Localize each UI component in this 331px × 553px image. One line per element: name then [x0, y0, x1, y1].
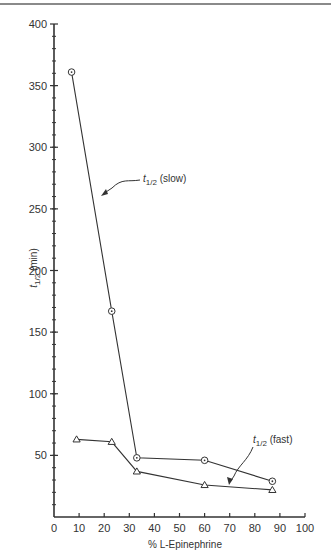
x-tick-label: 30: [123, 522, 135, 534]
fast-arrow: [230, 447, 253, 482]
y-tick-label: 300: [29, 141, 47, 153]
circle-marker-dot: [271, 480, 273, 482]
circle-marker-dot: [136, 457, 138, 459]
chart: 5010015020025030035040001020304050607080…: [0, 0, 331, 553]
axes: 5010015020025030035040001020304050607080…: [29, 18, 315, 534]
slow-arrowhead: [101, 189, 108, 196]
triangle-marker: [73, 436, 80, 442]
x-tick-label: 60: [198, 522, 210, 534]
x-tick-label: 70: [224, 522, 236, 534]
x-tick-label: 0: [51, 522, 57, 534]
circle-marker-dot: [71, 71, 73, 73]
x-tick-label: 40: [148, 522, 160, 534]
y-tick-label: 150: [29, 326, 47, 338]
series-slow: [68, 69, 275, 485]
x-tick-label: 10: [73, 522, 85, 534]
x-tick-label: 20: [98, 522, 110, 534]
series-fast: [73, 436, 276, 493]
x-tick-label: 100: [296, 522, 314, 534]
series-line: [72, 72, 273, 481]
slow-arrow: [103, 180, 140, 194]
x-tick-label: 80: [249, 522, 261, 534]
series-group: [68, 69, 276, 493]
y-tick-label: 50: [35, 449, 47, 461]
y-tick-label: 250: [29, 203, 47, 215]
x-axis-label: % L-Epinephrine: [148, 539, 222, 550]
y-tick-label: 350: [29, 80, 47, 92]
y-tick-label: 100: [29, 388, 47, 400]
series-line: [77, 439, 273, 490]
fast-series-label: t1/2 (fast): [253, 434, 292, 448]
annotations: t1/2 (slow)t1/2 (fast): [101, 173, 292, 485]
circle-marker-dot: [204, 459, 206, 461]
y-tick-label: 400: [29, 18, 47, 30]
slow-series-label: t1/2 (slow): [143, 173, 186, 187]
circle-marker-dot: [111, 310, 113, 312]
x-tick-label: 90: [274, 522, 286, 534]
x-tick-label: 50: [173, 522, 185, 534]
